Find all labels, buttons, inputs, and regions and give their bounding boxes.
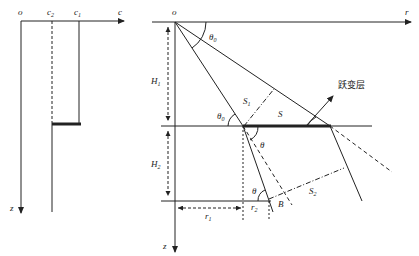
theta0-mid-label: θ0 (217, 111, 224, 122)
transition-layer-label: 跃变层 (338, 79, 365, 90)
wavefront-S2 (269, 168, 344, 199)
right-z-axis-label: z (162, 241, 167, 251)
theta-bottom-label: θ (252, 186, 257, 196)
theta-bottom-arc (258, 190, 265, 201)
H2-label: H2 (150, 159, 161, 170)
c2-label: c2 (47, 7, 54, 18)
theta0-mid-arc (228, 114, 235, 126)
B-label: B (278, 199, 284, 209)
S1-label: S1 (243, 96, 251, 107)
diagram-canvas: o c2 c1 c z (0, 0, 419, 256)
velocity-profile-panel (21, 21, 124, 213)
left-z-axis-label: z (9, 203, 14, 213)
S-label: S (278, 109, 283, 119)
theta0-top-label: θ0 (209, 32, 216, 43)
c-axis-label: c (118, 7, 122, 17)
refracted-ray-2 (330, 126, 362, 201)
r1-label: r1 (205, 211, 212, 222)
theta-mid-label: θ (260, 140, 265, 150)
wavefront-S1 (244, 89, 274, 126)
theta-mid-arc (250, 126, 258, 140)
incident-ray-2 (175, 22, 330, 126)
transition-layer-pointer (306, 96, 333, 126)
left-origin-label: o (18, 7, 23, 17)
extension-ray-1 (243, 126, 292, 205)
H1-label: H1 (150, 76, 161, 87)
ray-geometry-panel (152, 22, 411, 252)
S2-label: S2 (309, 186, 317, 197)
c1-label: c1 (74, 7, 81, 18)
right-origin-label: o (172, 7, 177, 17)
r-axis-label: r (405, 7, 409, 17)
r2-label: r2 (251, 202, 258, 213)
